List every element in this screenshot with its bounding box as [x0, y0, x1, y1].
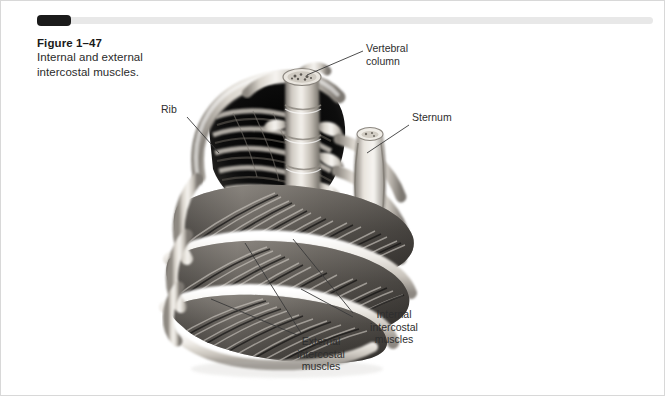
leader-internal-b — [301, 289, 353, 317]
vertebra-cut-surface — [283, 69, 321, 86]
header-rule-tab — [37, 15, 71, 26]
vertebral-column — [263, 69, 344, 214]
leader-external-a — [245, 243, 301, 333]
label-sternum: Sternum — [412, 111, 472, 124]
thoracic-cavity — [201, 67, 361, 217]
leader-rib — [187, 117, 219, 153]
leader-external-b — [211, 299, 297, 335]
sternum — [354, 128, 386, 234]
leader-sternum — [367, 125, 409, 153]
figure-caption: Figure 1–47 Internal and external interc… — [37, 36, 172, 79]
leader-lines — [187, 51, 409, 335]
right-rib-arcs — [331, 139, 403, 259]
leader-internal-a — [293, 239, 353, 313]
label-external-intercostal-muscles: External intercostal muscles — [282, 335, 360, 373]
figure-caption-body: Internal and external intercostal muscle… — [37, 50, 172, 79]
left-rib-edges — [168, 179, 197, 341]
intercostal-band-upper — [161, 171, 431, 301]
figure-page: Figure 1–47 Internal and external interc… — [0, 0, 665, 396]
rib-band-divider-1 — [169, 236, 411, 293]
upper-rib-arcs — [196, 74, 339, 185]
label-vertebral-column: Vertebral column — [366, 42, 436, 67]
label-rib: Rib — [161, 103, 201, 116]
header-rule — [37, 15, 653, 26]
upper-rib-stub — [247, 67, 327, 93]
figure-caption-title: Figure 1–47 — [37, 36, 172, 50]
label-internal-intercostal-muscles: Internal intercostal muscles — [356, 308, 432, 346]
header-rule-line — [37, 17, 653, 24]
leader-vertebral — [307, 51, 363, 75]
